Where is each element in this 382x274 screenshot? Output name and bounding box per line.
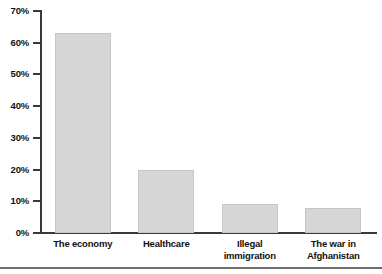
y-axis-tick: 30%: [33, 137, 41, 139]
y-axis-tick-label: 50%: [11, 70, 29, 80]
x-axis-category-label-line: The war in: [292, 238, 376, 250]
y-axis-tick: 60%: [33, 42, 41, 44]
y-axis-tick-label: 10%: [11, 197, 29, 207]
x-axis-category-label-line: The economy: [41, 238, 125, 250]
y-axis-tick-label: 30%: [11, 133, 29, 143]
y-axis-tick-label: 40%: [11, 101, 29, 111]
x-axis-category-label-line: Afghanistan: [292, 250, 376, 262]
y-axis-tick: 70%: [33, 10, 41, 12]
x-axis-category-label: The war inAfghanistan: [292, 238, 376, 261]
bar-chart-figure: 0%10%20%30%40%50%60%70% The economyHealt…: [0, 0, 382, 274]
bar: [222, 204, 278, 233]
y-axis-tick-label: 20%: [11, 165, 29, 175]
y-axis-tick-label: 70%: [11, 6, 29, 16]
x-axis-category-label-line: Illegal: [208, 238, 292, 250]
bar: [305, 208, 361, 233]
bar: [138, 170, 194, 233]
plot-area: [41, 11, 375, 233]
y-axis-tick-label: 0%: [16, 228, 29, 238]
y-axis-tick: 50%: [33, 73, 41, 75]
y-axis-tick: 0%: [33, 232, 41, 234]
footer-divider: [0, 267, 382, 269]
x-axis-category-label: The economy: [41, 238, 125, 250]
x-axis-category-label-line: immigration: [208, 250, 292, 262]
x-axis-category-label-line: Healthcare: [125, 238, 209, 250]
bar: [55, 33, 111, 233]
y-axis-tick: 40%: [33, 105, 41, 107]
y-axis-tick: 20%: [33, 169, 41, 171]
y-axis-tick: 10%: [33, 200, 41, 202]
y-axis-tick-label: 60%: [11, 38, 29, 48]
x-axis-category-label: Illegalimmigration: [208, 238, 292, 261]
x-axis-category-label: Healthcare: [125, 238, 209, 250]
